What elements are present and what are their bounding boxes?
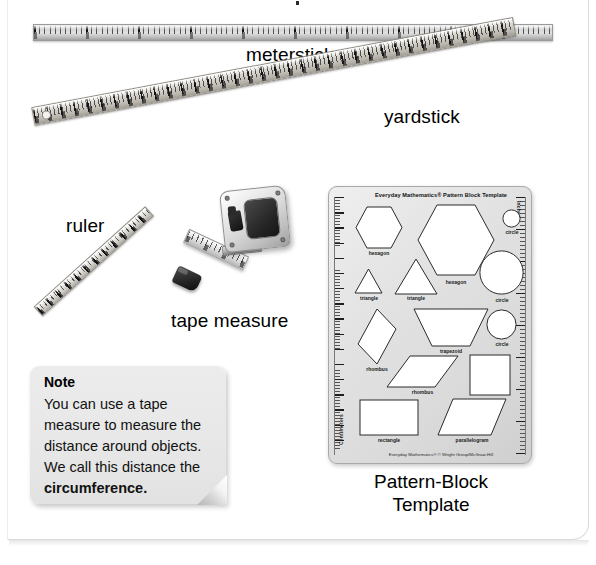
note-title: Note [44,374,75,390]
note-line-2: measure to measure the [44,417,201,433]
tape-case-screw [275,190,280,195]
template-printed-title: Everyday Mathematics® Pattern Block Temp… [357,192,525,198]
template-caption-line1: Pattern-Block [336,470,526,493]
tape-measure-label: tape measure [171,310,288,332]
yardstick-label: yardstick [384,106,460,128]
template-printed-footer: Everyday Mathematics® © Wright Group/McG… [357,452,525,457]
note-bold-term: circumference. [44,480,147,496]
shape-triangle [394,258,438,295]
note-line-4: We call this distance the [44,459,200,475]
shape-hexagon-small [355,206,403,249]
shape-circle-large [479,250,524,295]
note-body: You can use a tape measure to measure th… [44,394,216,499]
pattern-block-template-caption: Pattern-Block Template [336,470,526,516]
top-crop-mark [296,1,299,5]
tape-measure-grip-panel [243,197,281,240]
shape-triangle-small [354,268,383,294]
tape-measure-lock-button [228,206,237,216]
shape-label-triangle-small: triangle [349,295,389,301]
shape-label-triangle: triangle [394,295,438,301]
ruler-label: ruler [66,215,105,237]
inch-major-ticks [516,197,525,455]
tape-case-screw [224,196,229,201]
tape-measure-icon [176,188,306,313]
shape-label-rhombus-wide: rhombus [386,389,459,395]
note-line-1: You can use a tape [44,396,168,412]
tape-case-screw [280,237,285,242]
pattern-block-template: Centimeters Inches Everyday Mathematics®… [328,186,532,464]
tape-measure-case [219,185,291,254]
tape-measure-hook [171,265,202,292]
shape-parallelogram [437,398,507,436]
shape-label-circle-medium: circle [481,341,523,347]
note-box: Note You can use a tape measure to measu… [30,366,226,504]
shape-label-hexagon-small: hexagon [355,250,403,256]
tape-case-screw [229,242,234,247]
shape-square [469,354,511,396]
shape-label-circle-small: circle [498,229,526,235]
shape-label-rectangle: rectangle [359,437,419,443]
shape-circle-small [502,209,521,228]
centimeters-scale-label: Centimeters [338,414,344,445]
page-frame-shadow [9,540,589,546]
shape-trapezoid [413,308,489,347]
note-line-3: distance around objects. [44,438,201,454]
shape-rectangle [359,399,419,436]
shape-circle-medium [486,309,517,340]
shape-label-circle-large: circle [481,297,523,303]
shape-label-parallelogram: parallelogram [434,437,510,443]
template-caption-line2: Template [336,493,526,516]
shape-rhombus-wide [386,355,459,388]
